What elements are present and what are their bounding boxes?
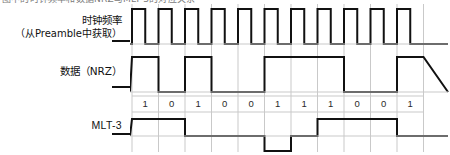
nrz-polyline [130,57,448,92]
bit-label-1: 0 [169,98,174,109]
bit-label-group: 10100111001 [132,96,424,112]
waveform-svg: 10100111001 [130,0,450,155]
mlt3-waveform [130,119,448,151]
clock-leader-line [112,40,130,42]
bit-label-7: 1 [328,98,333,109]
bit-label-6: 1 [302,98,307,109]
mlt3-polyline [130,119,448,151]
bit-label-4: 0 [249,98,254,109]
clock-polyline [130,9,448,44]
clock-row-label: 时钟频率 （从Preamble中获取） [15,14,122,40]
clock-waveform [130,9,448,44]
clock-label-text: 时钟频率 [82,14,122,26]
mlt3-leader-line [112,133,130,135]
waveform-plot: 10100111001 [130,0,450,155]
bit-label-2: 1 [196,98,201,109]
nrz-leader-line [112,86,130,88]
bit-label-3: 0 [222,98,227,109]
bit-label-5: 1 [275,98,280,109]
label-column: 时钟频率 （从Preamble中获取） 数据（NRZ） MLT-3 [0,0,130,155]
clock-sublabel-text: （从Preamble中获取） [15,27,122,40]
bit-label-0: 1 [143,98,148,109]
nrz-waveform [130,57,448,92]
mlt3-row-label: MLT-3 [92,119,122,132]
bit-label-8: 0 [355,98,360,109]
mlt3-encoding-diagram: 图中的时钟频率和数据NRZ与MLT-3的对应关系 时钟频率 （从Preamble… [0,0,450,155]
bit-label-10: 1 [408,98,413,109]
nrz-row-label: 数据（NRZ） [60,65,122,78]
bit-label-9: 0 [381,98,386,109]
